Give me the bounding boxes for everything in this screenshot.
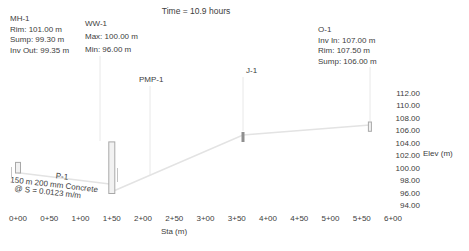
y-tick-label: 108.00 xyxy=(375,114,420,123)
structure-j-1 xyxy=(242,132,245,142)
x-tick-label: 5+00 xyxy=(315,214,347,223)
node-invert-out-value: Inv Out: 99.35 m xyxy=(10,46,69,57)
node-invert-in-value: Inv In: 107.00 m xyxy=(318,36,377,47)
node-max-value: Max: 100.00 m xyxy=(85,30,138,43)
node-label: O-1 xyxy=(318,25,377,36)
node-sump-value: Sump: 106.00 m xyxy=(318,57,377,68)
x-tick-label: 1+50 xyxy=(96,214,128,223)
y-tick-label: 100.00 xyxy=(375,164,420,173)
node-label-j-1: J-1 xyxy=(246,66,257,77)
y-tick-label: 112.00 xyxy=(375,89,420,98)
node-rim-value: Rim: 101.00 m xyxy=(10,25,69,36)
y-tick-label: 106.00 xyxy=(375,126,420,135)
callout-bracket-tick-left xyxy=(11,167,12,178)
node-label-pmp-1: PMP-1 xyxy=(139,75,163,86)
node-label: MH-1 xyxy=(10,14,69,25)
node-min-value: Min: 96.00 m xyxy=(85,43,138,56)
node-label: WW-1 xyxy=(85,17,138,30)
x-tick-label: 2+50 xyxy=(158,214,190,223)
y-tick-label: 94.00 xyxy=(375,201,420,210)
node-annotation-ww-1: WW-1 Max: 100.00 m Min: 96.00 m xyxy=(85,17,138,56)
y-tick-label: 102.00 xyxy=(375,151,420,160)
node-annotation-mh-1: MH-1 Rim: 101.00 m Sump: 99.30 m Inv Out… xyxy=(10,14,69,56)
y-tick-label: 104.00 xyxy=(375,139,420,148)
x-tick-label: 4+00 xyxy=(252,214,284,223)
y-tick-label: 98.00 xyxy=(375,176,420,185)
x-tick-label: 0+00 xyxy=(2,214,34,223)
x-tick-label: 2+00 xyxy=(127,214,159,223)
callout-bracket-tick-right xyxy=(117,168,118,182)
time-label: Time = 10.9 hours xyxy=(140,6,252,16)
x-axis-title: Sta (m) xyxy=(149,227,199,236)
x-tick-label: 4+50 xyxy=(283,214,315,223)
x-tick-label: 5+50 xyxy=(346,214,378,223)
x-tick-label: 0+50 xyxy=(33,214,65,223)
node-rim-value: Rim: 107.50 m xyxy=(318,46,377,57)
force-main-line xyxy=(112,125,370,192)
y-tick-label: 96.00 xyxy=(375,189,420,198)
x-tick-label: 1+00 xyxy=(65,214,97,223)
node-sump-value: Sump: 99.30 m xyxy=(10,35,69,46)
structure-o-1 xyxy=(368,122,371,131)
y-axis-title: Elev (m) xyxy=(423,149,453,158)
x-tick-label: 6+00 xyxy=(377,214,409,223)
x-tick-label: 3+50 xyxy=(221,214,253,223)
x-tick-label: 3+00 xyxy=(190,214,222,223)
profile-view: Time = 10.9 hours MH-1 Rim: 101.00 m Sum… xyxy=(0,0,469,251)
node-annotation-o-1: O-1 Inv In: 107.00 m Rim: 107.50 m Sump:… xyxy=(318,25,377,67)
y-tick-label: 110.00 xyxy=(375,101,420,110)
